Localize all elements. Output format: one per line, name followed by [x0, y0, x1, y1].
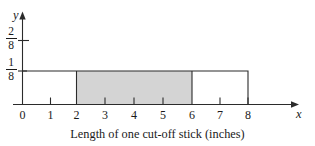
y-tick-label-1-8: 1 8	[3, 57, 19, 82]
y-axis-arrowhead	[19, 12, 25, 20]
x-tick-label-3: 3	[97, 109, 113, 121]
x-tick-label-1: 1	[43, 109, 59, 121]
x-tick-label-5: 5	[155, 109, 171, 121]
plot-canvas	[0, 0, 315, 146]
uniform-distribution-figure: y x 2 8 1 8 0 1 2 3 4 5 6 7 8 Length of …	[0, 0, 315, 146]
fraction-denominator: 8	[3, 71, 19, 83]
x-tick-label-6: 6	[184, 109, 200, 121]
x-tick-label-7: 7	[212, 109, 228, 121]
x-tick-label-8: 8	[240, 109, 256, 121]
y-axis-label: y	[13, 9, 19, 22]
x-axis-label: x	[296, 108, 302, 121]
figure-caption: Length of one cut-off stick (inches)	[0, 127, 315, 142]
fraction-numerator: 1	[3, 57, 19, 69]
fraction-denominator: 8	[3, 40, 19, 52]
fraction-numerator: 2	[3, 26, 19, 38]
x-tick-label-0: 0	[15, 109, 31, 121]
x-tick-label-4: 4	[126, 109, 142, 121]
x-tick-label-2: 2	[69, 109, 85, 121]
y-tick-label-2-8: 2 8	[3, 26, 19, 51]
